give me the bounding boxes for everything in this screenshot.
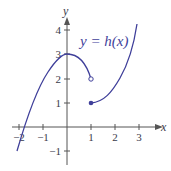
y-axis-arrow-icon — [64, 17, 70, 25]
x-tick-label: 2 — [112, 131, 118, 143]
y-tick-label: 2 — [56, 73, 62, 85]
x-tick-label: 3 — [136, 131, 142, 143]
y-tick-label: −1 — [49, 145, 61, 157]
y-tick-label: 4 — [56, 24, 62, 36]
filled-dot-marker — [89, 101, 94, 106]
curve-left-piece — [17, 54, 91, 151]
open-circle-marker — [89, 77, 93, 81]
x-axis-label: x — [160, 120, 167, 134]
y-axis-label: y — [62, 4, 69, 18]
y-tick-label: 1 — [56, 97, 62, 109]
function-label: y = h(x) — [78, 33, 128, 50]
x-tick-label: 1 — [88, 131, 94, 143]
graph-canvas: −2 −1 1 2 3 −1 1 2 3 4 x y y = h(x) — [0, 0, 171, 171]
x-tick-label: −1 — [37, 131, 49, 143]
